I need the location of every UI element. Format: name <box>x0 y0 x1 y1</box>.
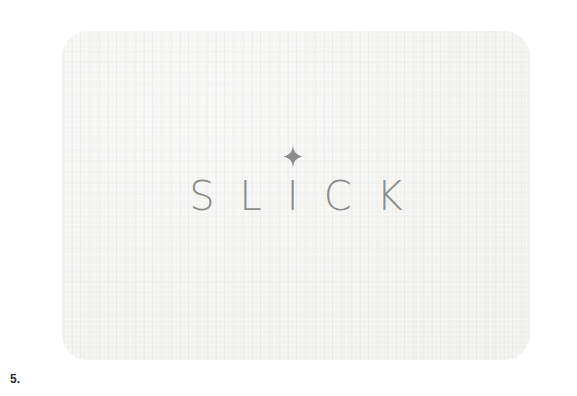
logo-letter-i-group: I <box>287 176 299 216</box>
figure-canvas: S L I C K 5. <box>0 0 577 396</box>
logo-card: S L I C K <box>62 31 530 360</box>
logo-letter-k: K <box>377 176 403 216</box>
logo-letter-c: C <box>324 176 352 216</box>
sparkle-icon <box>283 145 302 168</box>
logo-letter-i: I <box>287 173 299 219</box>
logo-letter-s: S <box>189 176 214 216</box>
logo-letter-l: L <box>240 176 262 216</box>
logo-wordmark: S L I C K <box>62 31 530 360</box>
figure-caption: 5. <box>10 372 20 386</box>
wordmark-row: S L I C K <box>177 176 416 216</box>
